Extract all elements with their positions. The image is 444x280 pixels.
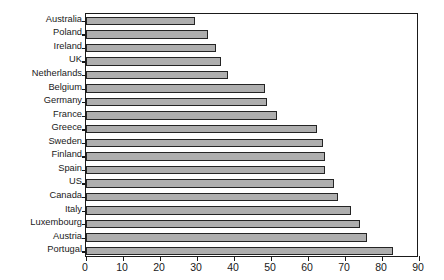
y-axis-tick bbox=[82, 156, 86, 157]
x-axis-tick-label: 20 bbox=[153, 262, 165, 273]
y-axis-label: Greece bbox=[2, 123, 82, 132]
x-axis-tick-label: 60 bbox=[301, 262, 313, 273]
y-axis-tick bbox=[82, 34, 86, 35]
bar-row bbox=[86, 190, 417, 204]
y-axis-label: Belgium bbox=[2, 83, 82, 92]
y-axis-tick bbox=[82, 129, 86, 130]
y-axis-tick bbox=[82, 143, 86, 144]
plot-area bbox=[85, 13, 418, 257]
bar-row bbox=[86, 177, 417, 191]
y-axis-label: Austria bbox=[2, 232, 82, 241]
bar bbox=[86, 139, 323, 147]
x-axis-tick-label: 30 bbox=[190, 262, 202, 273]
y-axis-label: Spain bbox=[2, 164, 82, 173]
bar-row bbox=[86, 82, 417, 96]
bar bbox=[86, 125, 317, 133]
bar bbox=[86, 30, 208, 38]
y-axis-label: Ireland bbox=[2, 42, 82, 51]
x-axis-tick-label: 0 bbox=[82, 262, 88, 273]
y-axis-category-labels: AustraliaPolandIrelandUKNetherlandsBelgi… bbox=[0, 13, 82, 257]
bar-row bbox=[86, 109, 417, 123]
bar-row bbox=[86, 41, 417, 55]
bar bbox=[86, 233, 367, 241]
y-axis-label: Germany bbox=[2, 96, 82, 105]
bar bbox=[86, 220, 360, 228]
y-axis-label: Canada bbox=[2, 191, 82, 200]
x-axis-tick-label: 10 bbox=[116, 262, 128, 273]
bar bbox=[86, 152, 325, 160]
bar bbox=[86, 98, 267, 106]
y-axis-tick bbox=[82, 211, 86, 212]
y-axis-tick bbox=[82, 116, 86, 117]
y-axis-label: Poland bbox=[2, 28, 82, 37]
y-axis-label: Finland bbox=[2, 150, 82, 159]
bar-row bbox=[86, 122, 417, 136]
bar bbox=[86, 166, 325, 174]
y-axis-tick bbox=[82, 197, 86, 198]
bar bbox=[86, 44, 216, 52]
y-axis-tick bbox=[82, 238, 86, 239]
bar-row bbox=[86, 163, 417, 177]
y-axis-tick bbox=[82, 183, 86, 184]
x-axis-tick-label: 50 bbox=[264, 262, 276, 273]
y-axis-tick bbox=[82, 21, 86, 22]
bar bbox=[86, 179, 334, 187]
bar-row bbox=[86, 204, 417, 218]
y-axis-label: Italy bbox=[2, 205, 82, 214]
bar-row bbox=[86, 55, 417, 69]
bar bbox=[86, 57, 221, 65]
y-axis-label: Luxembourg bbox=[2, 218, 82, 227]
bar bbox=[86, 193, 338, 201]
bar-row bbox=[86, 244, 417, 258]
bar-row bbox=[86, 95, 417, 109]
y-axis-tick bbox=[82, 75, 86, 76]
x-axis-tick-label: 70 bbox=[338, 262, 350, 273]
y-axis-label: Netherlands bbox=[2, 69, 82, 78]
bar-row bbox=[86, 28, 417, 42]
y-axis-tick bbox=[82, 224, 86, 225]
bar-chart: AustraliaPolandIrelandUKNetherlandsBelgi… bbox=[0, 0, 444, 280]
bar bbox=[86, 17, 195, 25]
y-axis-label: UK bbox=[2, 55, 82, 64]
x-axis-tick-label: 80 bbox=[375, 262, 387, 273]
bar-row bbox=[86, 150, 417, 164]
y-axis-tick bbox=[82, 102, 86, 103]
y-axis-tick bbox=[82, 61, 86, 62]
x-axis-tick-label: 90 bbox=[412, 262, 424, 273]
bar-row bbox=[86, 136, 417, 150]
y-axis-tick bbox=[82, 170, 86, 171]
bar-row bbox=[86, 217, 417, 231]
x-axis-tick-label: 40 bbox=[227, 262, 239, 273]
y-axis-tick bbox=[82, 251, 86, 252]
y-axis-label: Portugal bbox=[2, 245, 82, 254]
y-axis-label: US bbox=[2, 177, 82, 186]
bar-row bbox=[86, 68, 417, 82]
bar bbox=[86, 206, 351, 214]
y-axis-label: Australia bbox=[2, 15, 82, 24]
y-axis-tick bbox=[82, 89, 86, 90]
y-axis-label: Sweden bbox=[2, 137, 82, 146]
bar bbox=[86, 84, 265, 92]
bar-row bbox=[86, 14, 417, 28]
bar bbox=[86, 247, 393, 255]
bar bbox=[86, 71, 228, 79]
bar bbox=[86, 111, 277, 119]
y-axis-label: France bbox=[2, 110, 82, 119]
y-axis-tick bbox=[82, 48, 86, 49]
bar-row bbox=[86, 231, 417, 245]
